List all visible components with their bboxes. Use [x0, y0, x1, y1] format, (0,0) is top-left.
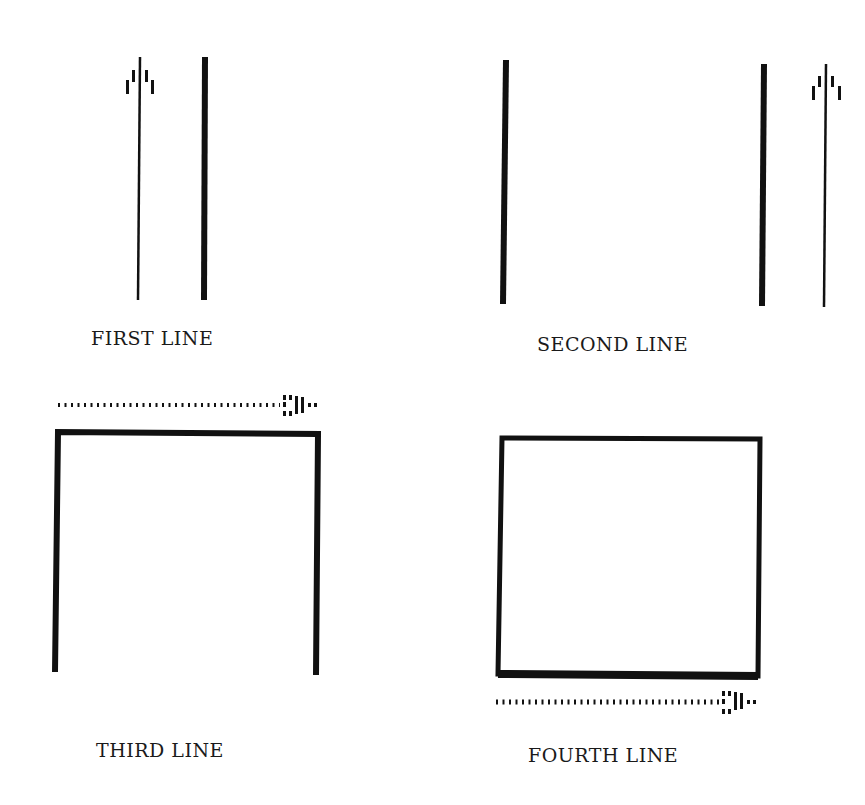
thick-line [204, 57, 205, 300]
third-line-label: THIRD LINE [96, 739, 224, 761]
dotted-right-arrow-icon [58, 395, 317, 416]
thick-left-line [503, 60, 506, 304]
fourth-line-label: FOURTH LINE [528, 744, 678, 766]
emphasized-bottom-edge [498, 674, 758, 676]
third-line-figure [55, 395, 318, 675]
second-line-figure [503, 60, 841, 307]
closed-box [498, 438, 760, 676]
second-line-label: SECOND LINE [537, 333, 688, 355]
fourth-line-figure [496, 438, 760, 714]
first-line-label: FIRST LINE [91, 327, 213, 349]
open-box [55, 432, 318, 675]
diagram-canvas [0, 0, 865, 805]
first-line-figure [126, 57, 205, 300]
thin-guide-line [138, 57, 140, 300]
thin-guide-line [824, 64, 826, 307]
thick-right-line [762, 64, 764, 306]
dotted-right-arrow-icon [496, 691, 756, 714]
